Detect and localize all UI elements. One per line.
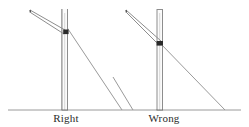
brace-lower-edge-wrong bbox=[127, 13, 160, 46]
junction-node-right bbox=[63, 30, 68, 35]
brace-upper-edge-right bbox=[30, 10, 65, 30]
diagram-canvas bbox=[0, 0, 249, 127]
caption-right: Right bbox=[36, 112, 96, 124]
caption-wrong: Wrong bbox=[130, 112, 198, 124]
brace-lower-edge-right bbox=[31, 13, 65, 35]
guy-wire-wrong bbox=[160, 43, 225, 110]
junction-node-wrong bbox=[157, 41, 163, 46]
brace-end-cap-wrong bbox=[126, 10, 127, 13]
panel-right bbox=[30, 9, 122, 110]
panel-wrong bbox=[113, 9, 225, 110]
secondary-wire-wrong bbox=[113, 77, 133, 110]
brace-end-cap-right bbox=[30, 10, 31, 13]
guy-wire-right bbox=[66, 26, 122, 110]
brace-upper-edge-wrong bbox=[126, 10, 161, 41]
diagram-figure: Right Wrong bbox=[0, 0, 249, 127]
